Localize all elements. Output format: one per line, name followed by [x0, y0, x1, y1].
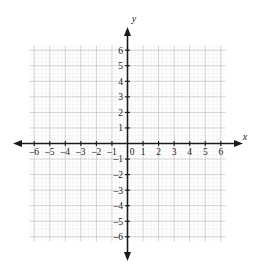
- x-tick-label--3: –3: [75, 147, 86, 157]
- x-tick-label-3: 3: [172, 147, 177, 157]
- y-tick-label--3: –3: [113, 186, 124, 196]
- y-axis-label: y: [131, 13, 137, 24]
- y-tick-label-5: 5: [118, 61, 123, 71]
- y-tick-label--5: –5: [113, 217, 124, 227]
- x-axis-right-arrowhead: [234, 140, 243, 147]
- y-tick-label--6: –6: [113, 232, 124, 242]
- y-axis-top-arrowhead: [124, 27, 131, 36]
- y-tick-label-2: 2: [118, 108, 123, 118]
- x-axis-label: x: [242, 131, 248, 142]
- axis-lines: [13, 27, 243, 261]
- x-tick-label--5: –5: [44, 147, 55, 157]
- x-tick-label-5: 5: [203, 147, 208, 157]
- y-tick-label-3: 3: [118, 92, 123, 102]
- coordinate-plane-figure: –6–5–4–3–2–10123456 654321–1–2–3–4–5–6 x…: [0, 0, 256, 267]
- y-axis-bottom-arrowhead: [124, 252, 131, 261]
- x-axis-left-arrowhead: [13, 140, 22, 147]
- y-tick-label-4: 4: [118, 77, 123, 87]
- y-tick-label--2: –2: [113, 170, 124, 180]
- coordinate-grid-svg: –6–5–4–3–2–10123456 654321–1–2–3–4–5–6 x…: [0, 0, 256, 267]
- x-tick-label-6: 6: [218, 147, 223, 157]
- x-tick-label--2: –2: [91, 147, 102, 157]
- x-tick-label-0: 0: [130, 147, 135, 157]
- x-tick-label-1: 1: [141, 147, 146, 157]
- y-tick-label-1: 1: [118, 123, 123, 133]
- x-tick-label-2: 2: [156, 147, 161, 157]
- x-tick-label--6: –6: [28, 147, 39, 157]
- y-tick-label--1: –1: [113, 154, 124, 164]
- x-tick-label-4: 4: [187, 147, 192, 157]
- x-tick-label--4: –4: [60, 147, 71, 157]
- y-tick-label--4: –4: [113, 201, 124, 211]
- y-tick-label-6: 6: [118, 46, 123, 56]
